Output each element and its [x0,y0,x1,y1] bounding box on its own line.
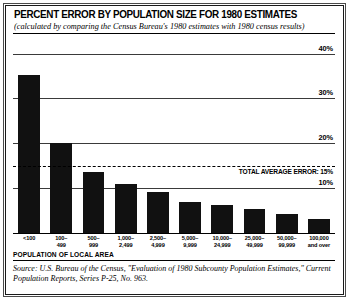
x-axis-title: POPULATION OF LOCAL AREA [13,251,114,258]
x-tick-label: 500– 999 [77,235,109,248]
bar [276,214,298,233]
total-average-error-label: TOTAL AVERAGE ERROR: 15% [239,168,333,175]
bar [244,209,266,233]
chart-subtitle: (calculated by comparing the Census Bure… [14,21,323,31]
y-tick-label: 20% [319,133,334,142]
chart-title: PERCENT ERROR BY POPULATION SIZE FOR 198… [14,9,324,20]
y-tick-label: 40% [319,44,334,53]
x-tick-label: 100– 499 [45,235,77,248]
x-tick-label: 10,000– 24,999 [206,235,238,248]
bar [147,192,169,233]
title-divider [13,33,335,34]
source-line-1: Source: U.S. Bureau of the Census, "Eval… [13,264,304,273]
bar [18,75,40,233]
chart-figure: PERCENT ERROR BY POPULATION SIZE FOR 198… [0,0,349,300]
x-tick-label: <100 [13,235,45,242]
x-tick-label: 100,000 and over [303,235,335,248]
y-tick-label: 30% [319,88,334,97]
bar [179,202,201,233]
x-tick-label: 2,500– 4,999 [142,235,174,248]
bars-group [13,40,303,233]
bar [115,184,137,233]
bar [308,219,330,233]
footer-divider [13,260,335,261]
y-tick-label: 10% [319,178,334,187]
x-axis-baseline [13,233,335,234]
bar [211,205,233,233]
x-tick-label: 1,000– 2,499 [110,235,142,248]
x-tick-label: 50,000– 99,999 [271,235,303,248]
x-tick-label: 5,000– 9,999 [174,235,206,248]
x-tick-label: 25,000– 49,999 [238,235,270,248]
source-note: Source: U.S. Bureau of the Census, "Eval… [13,264,338,285]
plot-area: 40%30%20%10% TOTAL AVERAGE ERROR: 15% [13,40,335,234]
total-average-error-line [13,166,335,167]
bar [83,172,105,234]
bar [50,143,72,233]
